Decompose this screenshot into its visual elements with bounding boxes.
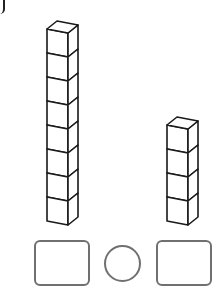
right-cube-tower bbox=[167, 117, 198, 225]
left-answer-box[interactable] bbox=[34, 240, 90, 286]
cube-front-face bbox=[47, 197, 68, 225]
cube-front-face bbox=[167, 197, 188, 225]
left-cube-tower bbox=[47, 21, 78, 225]
right-answer-box[interactable] bbox=[156, 240, 212, 286]
comparison-symbol-circle[interactable] bbox=[104, 245, 141, 282]
